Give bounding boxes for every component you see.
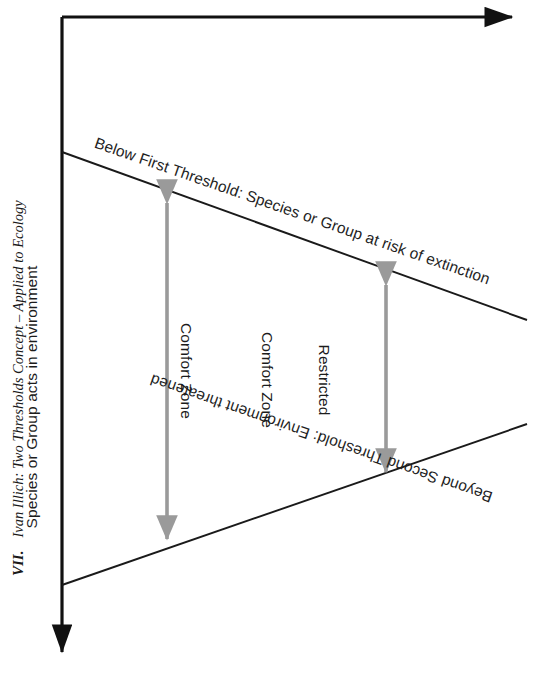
- first-threshold-line: [62, 152, 527, 320]
- second-threshold-line: [62, 424, 527, 585]
- comfort-zone-label: Comfort Zone: [177, 306, 195, 436]
- restricted-comfort-zone-label: Restricted Comfort Zone: [334, 315, 372, 445]
- restricted-comfort-zone-label-line2: Comfort Zone: [258, 315, 277, 445]
- figure-page: VII. Ivan Illich: Two Thresholds Concept…: [0, 0, 539, 684]
- restricted-comfort-zone-label-line1: Restricted: [315, 315, 334, 445]
- y-axis-title: Species or Group acts in environment: [23, 232, 45, 562]
